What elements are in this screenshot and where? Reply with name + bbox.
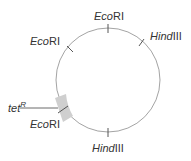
site-tick-upper-left [67,46,73,52]
plasmid-diagram: EcoRI HindIII EcoRI EcoRI HindIII tetR [0,0,191,161]
tetR-label: tetR [8,100,26,114]
site-label-lower-left: EcoRI [30,118,60,130]
site-label-bottom: HindIII [92,142,124,154]
site-label-upper-left: EcoRI [30,35,60,47]
site-label-top: EcoRI [94,10,124,22]
plasmid-svg: EcoRI HindIII EcoRI EcoRI HindIII tetR [0,0,191,161]
site-label-upper-right: HindIII [150,30,182,42]
